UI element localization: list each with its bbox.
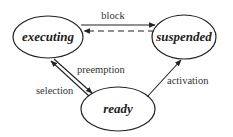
transition-block: block bbox=[81, 10, 155, 25]
state-executing-label: executing bbox=[22, 29, 74, 44]
transition-block-label: block bbox=[101, 10, 125, 21]
state-suspended-label: suspended bbox=[155, 29, 212, 44]
state-suspended: suspended bbox=[152, 15, 216, 59]
state-executing: executing bbox=[13, 16, 83, 58]
transition-preemption-label: preemption bbox=[77, 64, 126, 75]
transition-selection-label: selection bbox=[36, 85, 74, 96]
state-ready-label: ready bbox=[103, 101, 133, 116]
transition-activation-label: activation bbox=[167, 75, 209, 86]
transition-activation: activation bbox=[147, 60, 209, 97]
state-diagram: executing suspended ready block preempti… bbox=[0, 0, 233, 137]
state-ready: ready bbox=[81, 87, 155, 131]
